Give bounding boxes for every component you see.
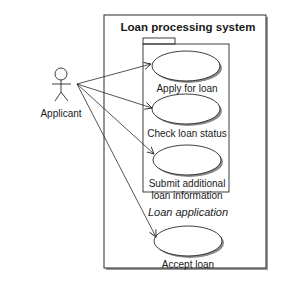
actor-label: Applicant: [40, 108, 81, 119]
use-case-label: Accept loan: [162, 259, 214, 270]
use-case-apply-for-loan[interactable]: Apply for loan: [152, 51, 222, 94]
package-label: Loan application: [148, 206, 228, 218]
use-case-label: Apply for loan: [156, 83, 217, 94]
use-case-accept-loan[interactable]: Accept loan: [154, 226, 224, 270]
use-case-ellipse[interactable]: [153, 145, 221, 175]
use-case-ellipse[interactable]: [154, 226, 222, 256]
use-case-ellipse[interactable]: [152, 94, 220, 124]
actor-applicant[interactable]: Applicant: [40, 68, 81, 119]
use-case-label-line-1: Submit additional: [149, 178, 226, 189]
use-case-label-line-2: loan information: [151, 190, 222, 201]
use-case-check-loan-status[interactable]: Check loan status: [147, 94, 227, 139]
stick-figure-icon: [52, 68, 71, 101]
use-case-label: Check loan status: [147, 128, 227, 139]
use-case-ellipse[interactable]: [152, 51, 220, 81]
use-case-diagram: Loan processing system Loan application …: [0, 0, 283, 292]
system-title: Loan processing system: [121, 21, 256, 33]
